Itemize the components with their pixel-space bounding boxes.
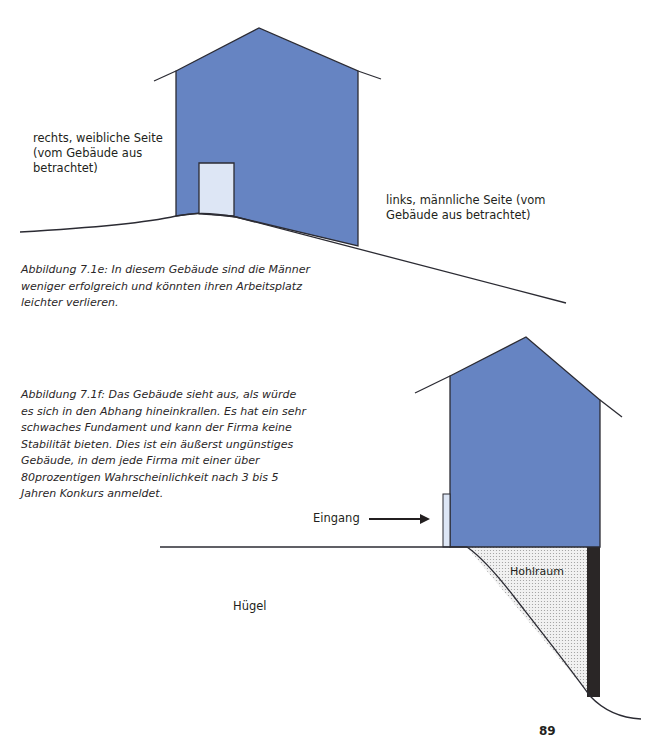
roof-f-left-eave — [415, 376, 450, 393]
door-e — [199, 163, 234, 216]
caption-figure-7-1f: Abbildung 7.1f: Das Gebäude sieht aus, a… — [21, 387, 311, 503]
label-hill: Hügel — [233, 599, 267, 614]
arrow-icon — [369, 514, 430, 524]
caption-figure-7-1e: Abbildung 7.1e: In diesem Gebäude sind d… — [21, 262, 311, 312]
roof-e-right-eave — [358, 71, 381, 79]
label-left-male-side: links, männliche Seite (vom Gebäude aus … — [386, 193, 586, 223]
roof-f-right-eave — [600, 400, 622, 417]
building-f-body — [450, 337, 600, 547]
label-void: Hohlraum — [510, 564, 564, 579]
label-right-female-side: rechts, weibliche Seite (vom Gebäude aus… — [33, 131, 173, 176]
door-f-entrance — [443, 494, 450, 547]
label-entrance: Eingang — [313, 511, 360, 526]
page-number: 89 — [539, 724, 556, 739]
roof-e-left-eave — [154, 71, 176, 81]
illustrations — [0, 0, 661, 743]
foundation-dark-bar — [587, 547, 600, 697]
